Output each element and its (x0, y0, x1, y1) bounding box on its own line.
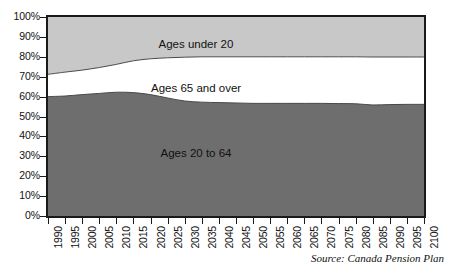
series-label-ages-20-to-64: Ages 20 to 64 (161, 147, 232, 160)
x-tick-mark (65, 218, 66, 224)
x-tick-mark (168, 218, 169, 224)
x-tick-label: 2095 (412, 226, 423, 249)
x-tick-mark (304, 218, 305, 224)
x-tick-mark (202, 218, 203, 224)
x-axis-ticks (0, 218, 452, 224)
x-tick-label: 2045 (241, 226, 252, 249)
x-tick-mark (287, 218, 288, 224)
y-tick-label: 10% (0, 190, 40, 201)
y-tick-label: 30% (0, 150, 40, 161)
x-tick-mark (321, 218, 322, 224)
x-tick-mark (151, 218, 152, 224)
x-tick-mark (116, 218, 117, 224)
x-tick-label: 2000 (87, 226, 98, 249)
x-tick-mark (185, 218, 186, 224)
x-tick-mark (373, 218, 374, 224)
x-tick-mark (407, 218, 408, 224)
series-label-ages-under-20: Ages under 20 (159, 38, 234, 51)
x-tick-label: 2080 (361, 226, 372, 249)
x-tick-label: 2010 (121, 226, 132, 249)
x-tick-mark (424, 218, 425, 224)
x-tick-mark (99, 218, 100, 224)
x-tick-mark (270, 218, 271, 224)
series-label-ages-65-and-over: Ages 65 and over (151, 82, 241, 95)
y-tick-label: 80% (0, 51, 40, 62)
x-tick-label: 2025 (173, 226, 184, 249)
x-tick-label: 2020 (156, 226, 167, 249)
x-tick-label: 2100 (429, 226, 440, 249)
x-tick-label: 1995 (70, 226, 81, 249)
x-tick-label: 2050 (258, 226, 269, 249)
y-tick-label: 90% (0, 31, 40, 42)
x-tick-label: 2040 (224, 226, 235, 249)
x-tick-label: 2065 (309, 226, 320, 249)
y-tick-label: 100% (0, 11, 40, 22)
x-tick-label: 2005 (104, 226, 115, 249)
x-tick-label: 2030 (190, 226, 201, 249)
x-tick-label: 2060 (292, 226, 303, 249)
x-tick-mark (253, 218, 254, 224)
x-tick-mark (82, 218, 83, 224)
plot-area (46, 15, 426, 218)
x-tick-mark (339, 218, 340, 224)
x-tick-mark (133, 218, 134, 224)
x-tick-label: 2070 (326, 226, 337, 249)
x-tick-label: 2035 (207, 226, 218, 249)
x-tick-mark (219, 218, 220, 224)
area-ages-20-to-64 (48, 92, 424, 216)
y-tick-label: 20% (0, 170, 40, 181)
x-tick-label: 2090 (395, 226, 406, 249)
y-tick-label: 50% (0, 111, 40, 122)
stacked-areas (48, 17, 424, 216)
y-tick-label: 40% (0, 130, 40, 141)
x-tick-label: 2075 (344, 226, 355, 249)
stacked-area-chart-figure: 100%90%80%70%60%50%40%30%20%10%0% Ages u… (0, 0, 452, 275)
y-tick-label: 70% (0, 71, 40, 82)
x-tick-mark (390, 218, 391, 224)
x-tick-mark (356, 218, 357, 224)
x-tick-label: 2055 (275, 226, 286, 249)
x-tick-label: 2085 (378, 226, 389, 249)
x-tick-mark (48, 218, 49, 224)
x-tick-label: 2015 (138, 226, 149, 249)
y-tick-label: 60% (0, 91, 40, 102)
x-tick-mark (236, 218, 237, 224)
x-tick-label: 1990 (53, 226, 64, 249)
source-note: Source: Canada Pension Plan (311, 252, 444, 265)
